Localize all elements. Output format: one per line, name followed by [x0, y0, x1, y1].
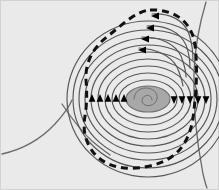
diagram-canvas: [0, 0, 219, 190]
vortex-core-ellipse: [126, 86, 170, 112]
vortex-diagram-figure: [0, 0, 219, 190]
vortex-core-group: [126, 86, 170, 112]
